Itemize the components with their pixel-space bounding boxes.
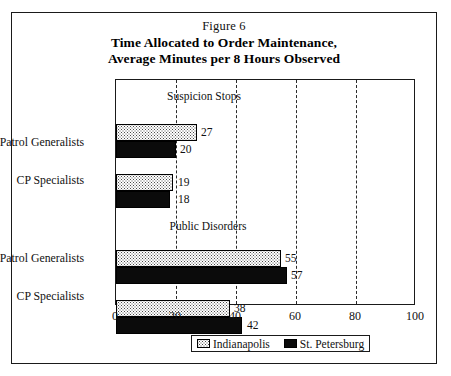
legend-label-indianapolis: Indianapolis bbox=[213, 338, 270, 350]
figure-number: Figure 6 bbox=[12, 19, 436, 34]
title-line-2: Average Minutes per 8 Hours Observed bbox=[12, 51, 436, 67]
bar-value-public-patrol-stpetersburg: 57 bbox=[291, 267, 303, 284]
bar-suspicion-cp-indianapolis bbox=[116, 174, 173, 191]
category-label-patrol-generalists-suspicion: Patrol Generalists bbox=[0, 135, 84, 150]
legend-item-stpetersburg: St. Petersburg bbox=[284, 338, 364, 350]
category-label-patrol-generalists-public: Patrol Generalists bbox=[0, 251, 84, 266]
xtick-60: 60 bbox=[289, 309, 301, 324]
bar-value-public-patrol-indianapolis: 55 bbox=[285, 250, 297, 267]
xtick-20: 20 bbox=[169, 309, 181, 324]
legend-swatch-indianapolis-icon bbox=[197, 339, 210, 348]
bar-value-suspicion-cp-stpetersburg: 18 bbox=[178, 191, 190, 208]
title-line-1: Time Allocated to Order Maintenance, bbox=[12, 35, 436, 51]
bar-value-suspicion-patrol-indianapolis: 27 bbox=[201, 124, 213, 141]
chart-plot-area: Suspicion Stops 27 20 19 18 Public Disor… bbox=[115, 79, 415, 305]
bar-value-public-cp-stpetersburg: 42 bbox=[247, 317, 259, 334]
bar-public-patrol-indianapolis bbox=[116, 250, 281, 267]
legend-label-stpetersburg: St. Petersburg bbox=[300, 338, 364, 350]
bar-suspicion-patrol-stpetersburg bbox=[116, 141, 176, 158]
bar-suspicion-cp-stpetersburg bbox=[116, 191, 170, 208]
bar-suspicion-patrol-indianapolis bbox=[116, 124, 197, 141]
xtick-40: 40 bbox=[229, 309, 241, 324]
legend-item-indianapolis: Indianapolis bbox=[197, 338, 270, 350]
bar-value-suspicion-patrol-stpetersburg: 20 bbox=[180, 141, 192, 158]
xtick-80: 80 bbox=[349, 309, 361, 324]
page-title: Time Allocated to Order Maintenance, Ave… bbox=[12, 35, 436, 67]
bar-value-suspicion-cp-indianapolis: 19 bbox=[178, 174, 190, 191]
category-label-cp-specialists-suspicion: CP Specialists bbox=[17, 173, 84, 188]
xtick-0: 0 bbox=[112, 309, 118, 324]
category-label-cp-specialists-public: CP Specialists bbox=[17, 289, 84, 304]
gridline-80 bbox=[356, 80, 357, 304]
chart-legend: Indianapolis St. Petersburg bbox=[191, 335, 370, 352]
section-caption-public-disorders: Public Disorders bbox=[170, 220, 247, 232]
section-caption-suspicion-stops: Suspicion Stops bbox=[167, 90, 241, 102]
bar-public-patrol-stpetersburg bbox=[116, 267, 287, 284]
figure-frame: Figure 6 Time Allocated to Order Mainten… bbox=[11, 12, 437, 364]
legend-swatch-stpetersburg-icon bbox=[284, 339, 297, 348]
xtick-100: 100 bbox=[406, 309, 424, 324]
